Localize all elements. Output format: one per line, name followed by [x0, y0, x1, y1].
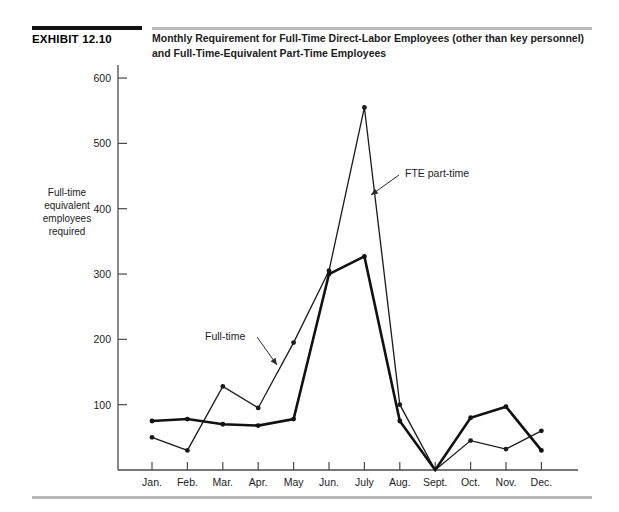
x-tick-label: Dec.: [531, 476, 553, 488]
data-point: [150, 419, 155, 424]
data-point: [468, 438, 473, 443]
data-point: [397, 402, 402, 407]
data-point: [150, 435, 155, 440]
y-tick-label: 500: [93, 137, 111, 149]
annotation-arrowhead: [271, 358, 277, 365]
x-tick-label: July: [355, 476, 374, 488]
y-tick-label: 300: [93, 268, 111, 280]
data-point: [256, 406, 261, 411]
y-tick-label: 400: [93, 203, 111, 215]
chart-region: 100200300400500600 Jan.Feb.Mar.Apr.MayJu…: [0, 55, 619, 495]
data-point: [220, 384, 225, 389]
data-point: [256, 423, 261, 428]
line-chart: 100200300400500600 Jan.Feb.Mar.Apr.MayJu…: [0, 55, 619, 495]
data-point: [362, 254, 367, 259]
data-point: [504, 447, 509, 452]
x-tick-label: Jan.: [142, 476, 162, 488]
data-point: [185, 417, 190, 422]
exhibit-title-line-1: Monthly Requirement for Full-Time Direct…: [152, 31, 602, 46]
data-point: [327, 272, 332, 277]
annotation-label: FTE part-time: [405, 167, 469, 179]
x-axis-ticks: Jan.Feb.Mar.Apr.MayJun.JulyAug.Sept.Oct.…: [142, 462, 552, 488]
x-tick-label: Oct.: [461, 476, 480, 488]
exhibit-number: EXHIBIT 12.10: [32, 33, 112, 45]
annotation-group: FTE part-timeFull-time: [205, 167, 469, 365]
x-tick-label: Mar.: [213, 476, 233, 488]
header-rule-right: [152, 27, 592, 30]
y-tick-label: 600: [93, 72, 111, 84]
footer-rule: [32, 496, 592, 499]
x-tick-label: Aug.: [389, 476, 411, 488]
x-tick-label: Jun.: [319, 476, 339, 488]
x-tick-label: Apr.: [249, 476, 268, 488]
x-tick-label: Sept.: [423, 476, 448, 488]
series-line-fte-part-time: [152, 107, 541, 470]
data-point: [362, 105, 367, 110]
annotation-arrowhead: [371, 189, 378, 195]
data-point: [468, 415, 473, 420]
data-point: [539, 448, 544, 453]
y-tick-label: 100: [93, 399, 111, 411]
data-point: [185, 448, 190, 453]
data-point: [220, 422, 225, 427]
data-point: [291, 340, 296, 345]
data-point: [291, 417, 296, 422]
x-tick-label: May: [284, 476, 305, 488]
header-rule-left: [32, 26, 142, 30]
y-axis-ticks: 100200300400500600: [93, 72, 127, 411]
series-line-full-time: [152, 256, 541, 470]
x-tick-label: Nov.: [496, 476, 517, 488]
exhibit-header: EXHIBIT 12.10 Monthly Requirement for Fu…: [0, 0, 619, 62]
data-point: [539, 428, 544, 433]
series-group: [150, 105, 544, 470]
annotation-label: Full-time: [205, 330, 245, 342]
y-tick-label: 200: [93, 333, 111, 345]
data-point: [397, 419, 402, 424]
x-tick-label: Feb.: [177, 476, 198, 488]
data-point: [504, 404, 509, 409]
